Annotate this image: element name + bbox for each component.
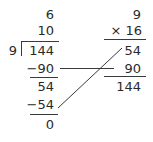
connector-lines: [0, 0, 153, 142]
connector-54-to-54: [58, 48, 122, 108]
